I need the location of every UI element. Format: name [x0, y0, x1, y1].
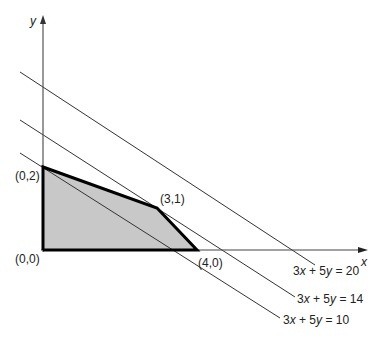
lp-diagram: y x (0,0) (0,2) (3,1) (4,0) 3x + 5y = 20…: [0, 0, 381, 340]
line-label-14: 3x + 5y = 14: [297, 292, 363, 306]
x-axis-label: x: [360, 255, 368, 269]
vertex-label-0-0: (0,0): [15, 252, 40, 266]
x-axis-arrow-icon: [358, 247, 368, 253]
y-axis-label: y: [29, 14, 37, 28]
vertex-label-0-2: (0,2): [15, 169, 40, 183]
line-label-20: 3x + 5y = 20: [293, 264, 359, 278]
vertex-label-4-0: (4,0): [198, 256, 223, 270]
feasible-region: [43, 167, 197, 250]
y-axis-arrow-icon: [40, 15, 46, 24]
line-label-10: 3x + 5y = 10: [283, 313, 349, 327]
vertex-label-3-1: (3,1): [160, 192, 185, 206]
